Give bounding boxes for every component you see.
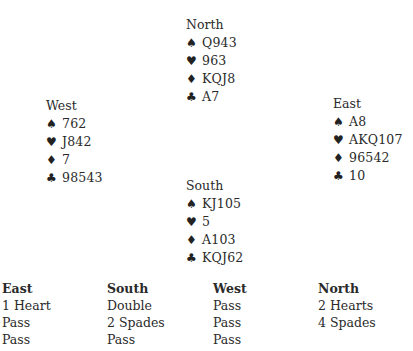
- heart-icon: ♥: [333, 131, 349, 149]
- hand-name: East: [333, 95, 403, 113]
- hearts-line: ♥963: [186, 52, 237, 70]
- bid-header: West: [213, 280, 247, 297]
- bid-header: North: [318, 280, 376, 297]
- hearts-line: ♥5: [186, 213, 244, 231]
- diamond-cards: 7: [62, 152, 70, 167]
- club-icon: ♣: [186, 249, 202, 267]
- bid: 1 Heart: [2, 297, 51, 314]
- spade-icon: ♠: [46, 115, 62, 133]
- hand-south: South ♠KJ105 ♥5 ♦A103 ♣KQJ62: [186, 177, 244, 267]
- bid: Double: [107, 297, 165, 314]
- spade-icon: ♠: [186, 195, 202, 213]
- bid-column-south: South Double 2 Spades Pass: [107, 280, 165, 348]
- diamond-cards: 96542: [349, 150, 390, 165]
- diamonds-line: ♦7: [46, 151, 103, 169]
- heart-icon: ♥: [46, 133, 62, 151]
- bid: 2 Hearts: [318, 297, 376, 314]
- diamond-icon: ♦: [333, 149, 349, 167]
- hand-name: South: [186, 177, 244, 195]
- hand-name: North: [186, 16, 237, 34]
- hand-west: West ♠762 ♥J842 ♦7 ♣98543: [46, 97, 103, 187]
- club-icon: ♣: [333, 167, 349, 185]
- heart-icon: ♥: [186, 52, 202, 70]
- club-cards: A7: [202, 89, 219, 104]
- bid: Pass: [213, 297, 247, 314]
- bid: 2 Spades: [107, 314, 165, 331]
- spades-line: ♠KJ105: [186, 195, 244, 213]
- heart-cards: 963: [202, 53, 226, 68]
- diamond-cards: KQJ8: [202, 71, 235, 86]
- bid: Pass: [213, 314, 247, 331]
- diamond-cards: A103: [202, 232, 236, 247]
- spade-cards: Q943: [202, 35, 237, 50]
- bidding-table: East 1 Heart Pass Pass South Double 2 Sp…: [0, 280, 413, 350]
- clubs-line: ♣A7: [186, 88, 237, 106]
- clubs-line: ♣10: [333, 167, 403, 185]
- spades-line: ♠762: [46, 115, 103, 133]
- hand-north: North ♠Q943 ♥963 ♦KQJ8 ♣A7: [186, 16, 237, 106]
- heart-cards: J842: [62, 134, 92, 149]
- bid: Pass: [107, 331, 165, 348]
- heart-cards: AKQ107: [349, 132, 403, 147]
- bid-column-east: East 1 Heart Pass Pass: [2, 280, 51, 348]
- diamond-icon: ♦: [46, 151, 62, 169]
- spade-icon: ♠: [333, 113, 349, 131]
- spade-cards: A8: [349, 114, 366, 129]
- hearts-line: ♥AKQ107: [333, 131, 403, 149]
- bid: 4 Spades: [318, 314, 376, 331]
- bid-header: South: [107, 280, 165, 297]
- bid: Pass: [213, 331, 247, 348]
- club-icon: ♣: [46, 169, 62, 187]
- spade-cards: KJ105: [202, 196, 241, 211]
- bid-column-north: North 2 Hearts 4 Spades: [318, 280, 376, 331]
- heart-icon: ♥: [186, 213, 202, 231]
- spade-cards: 762: [62, 116, 86, 131]
- club-cards: KQJ62: [202, 250, 244, 265]
- diamond-icon: ♦: [186, 231, 202, 249]
- bid: Pass: [2, 331, 51, 348]
- spade-icon: ♠: [186, 34, 202, 52]
- clubs-line: ♣KQJ62: [186, 249, 244, 267]
- bid-column-west: West Pass Pass Pass: [213, 280, 247, 348]
- club-cards: 10: [349, 168, 365, 183]
- club-cards: 98543: [62, 170, 103, 185]
- hearts-line: ♥J842: [46, 133, 103, 151]
- diamonds-line: ♦A103: [186, 231, 244, 249]
- diamonds-line: ♦96542: [333, 149, 403, 167]
- bid: Pass: [2, 314, 51, 331]
- club-icon: ♣: [186, 88, 202, 106]
- diamond-icon: ♦: [186, 70, 202, 88]
- bid-header: East: [2, 280, 51, 297]
- clubs-line: ♣98543: [46, 169, 103, 187]
- diamonds-line: ♦KQJ8: [186, 70, 237, 88]
- hand-name: West: [46, 97, 103, 115]
- spades-line: ♠Q943: [186, 34, 237, 52]
- spades-line: ♠A8: [333, 113, 403, 131]
- hand-east: East ♠A8 ♥AKQ107 ♦96542 ♣10: [333, 95, 403, 185]
- heart-cards: 5: [202, 214, 210, 229]
